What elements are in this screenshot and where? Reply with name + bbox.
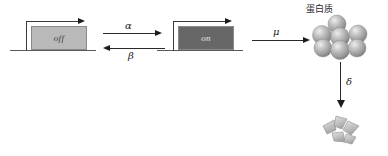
promoter-riser-off: [26, 21, 27, 51]
gene-on-label: on: [179, 33, 233, 43]
degraded-protein: [318, 110, 366, 146]
beta-arrowhead: [103, 45, 110, 51]
mu-rate-label: μ: [273, 26, 280, 37]
alpha-arrowhead: [155, 30, 162, 36]
gene-body-off: off: [31, 26, 87, 50]
gene-body-on: on: [178, 26, 234, 50]
sphere-group: [313, 15, 368, 60]
promoter-riser-on: [173, 21, 174, 51]
protein-spheres-svg: [310, 15, 372, 61]
fragments-svg: [318, 110, 366, 146]
protein-complex: [310, 15, 372, 61]
delta-rate-label: δ: [346, 76, 352, 87]
dna-baseline-on: [157, 50, 243, 51]
promoter-arrowhead-off: [78, 18, 85, 24]
promoter-arrowhead-on: [225, 18, 232, 24]
beta-rate-label: β: [128, 50, 134, 61]
delta-arrow-shaft: [340, 62, 341, 103]
beta-arrow-shaft: [110, 48, 165, 49]
dna-baseline-off: [10, 50, 96, 51]
alpha-rate-label: α: [125, 20, 132, 31]
mu-arrow-shaft: [252, 40, 306, 41]
protein-label: 蛋白质: [306, 2, 333, 15]
gene-off-label: off: [32, 33, 86, 43]
fragment-group: [323, 116, 359, 144]
mu-arrowhead: [303, 37, 310, 43]
promoter-topbar-off: [26, 21, 79, 22]
gene-expression-diagram: off α β on μ 蛋白质: [0, 0, 388, 156]
promoter-topbar-on: [173, 21, 226, 22]
delta-arrowhead: [337, 100, 345, 108]
alpha-arrow-shaft: [103, 33, 158, 34]
